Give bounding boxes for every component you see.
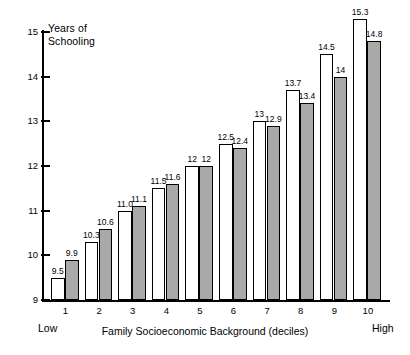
white-bar bbox=[286, 90, 300, 300]
chart-container: Years of Schooling 9101112131415 9.59.91… bbox=[0, 0, 410, 355]
y-axis-tick-mark bbox=[41, 165, 50, 167]
y-axis-tick-label: 9 bbox=[12, 295, 38, 305]
white-bar bbox=[51, 278, 65, 300]
y-axis-tick-label: 10 bbox=[12, 250, 38, 260]
bar-group: 14.514 bbox=[320, 28, 348, 300]
gray-bar bbox=[132, 206, 146, 300]
gray-bar bbox=[367, 41, 381, 300]
x-axis-tick-label: 7 bbox=[252, 306, 282, 316]
white-bar bbox=[152, 188, 166, 300]
bar-value-label: 13.7 bbox=[282, 79, 304, 88]
bar-group: 11.011.1 bbox=[118, 28, 146, 300]
white-bar bbox=[185, 166, 199, 300]
gray-bar bbox=[267, 126, 281, 300]
y-axis-tick-mark bbox=[41, 299, 50, 301]
bar-group: 15.314.8 bbox=[353, 28, 381, 300]
plot-area: 9101112131415 9.59.910.310.611.011.111.5… bbox=[42, 30, 390, 302]
white-bar bbox=[353, 19, 367, 300]
y-axis-tick-mark bbox=[41, 210, 50, 212]
x-axis-tick-label: 1 bbox=[51, 306, 81, 316]
bar-group: 13.713.4 bbox=[286, 28, 314, 300]
y-axis-tick-mark bbox=[41, 76, 50, 78]
x-axis-tick-label: 5 bbox=[185, 306, 215, 316]
bar-group: 12.512.4 bbox=[219, 28, 247, 300]
y-axis-tick-mark bbox=[41, 254, 50, 256]
white-bar bbox=[320, 54, 334, 300]
bar-value-label: 12 bbox=[195, 155, 217, 164]
y-axis-tick-mark bbox=[41, 120, 50, 122]
gray-bar bbox=[199, 166, 213, 300]
gray-bar bbox=[166, 184, 180, 300]
x-axis-tick-label: 6 bbox=[219, 306, 249, 316]
white-bar bbox=[253, 121, 267, 300]
bar-group: 9.59.9 bbox=[51, 28, 79, 300]
x-axis-line bbox=[42, 300, 390, 302]
y-axis-tick-label: 12 bbox=[12, 161, 38, 171]
x-axis-tick-label: 3 bbox=[118, 306, 148, 316]
y-axis-tick-label: 13 bbox=[12, 116, 38, 126]
x-axis-tick-label: 4 bbox=[151, 306, 181, 316]
gray-bar bbox=[65, 260, 79, 300]
white-bar bbox=[118, 211, 132, 300]
bar-group: 11.511.6 bbox=[152, 28, 180, 300]
white-bar bbox=[219, 144, 233, 300]
y-axis-tick-label: 14 bbox=[12, 72, 38, 82]
bar-value-label: 14 bbox=[330, 66, 352, 75]
y-axis-tick-label: 11 bbox=[12, 206, 38, 216]
gray-bar bbox=[99, 229, 113, 300]
bar-value-label: 9.9 bbox=[61, 249, 83, 258]
bar-value-label: 13.4 bbox=[296, 92, 318, 101]
bar-value-label: 10.6 bbox=[95, 218, 117, 227]
bar-value-label: 15.3 bbox=[349, 8, 371, 17]
white-bar bbox=[85, 242, 99, 300]
bar-value-label: 14.5 bbox=[316, 43, 338, 52]
y-axis-tick-mark bbox=[41, 31, 50, 33]
bar-group: 1312.9 bbox=[253, 28, 281, 300]
y-axis-tick-label: 15 bbox=[12, 27, 38, 37]
bar-value-label: 11.1 bbox=[128, 195, 150, 204]
x-axis-title: Family Socioeconomic Background (deciles… bbox=[0, 325, 410, 337]
bar-value-label: 12.9 bbox=[263, 115, 285, 124]
x-axis-tick-label: 10 bbox=[353, 306, 383, 316]
x-axis-tick-label: 8 bbox=[286, 306, 316, 316]
bar-group: 10.310.6 bbox=[85, 28, 113, 300]
gray-bar bbox=[300, 103, 314, 300]
bar-value-label: 14.8 bbox=[363, 30, 385, 39]
bar-group: 1212 bbox=[185, 28, 213, 300]
gray-bar bbox=[233, 148, 247, 300]
x-axis-tick-label: 2 bbox=[84, 306, 114, 316]
x-axis-tick-label: 9 bbox=[319, 306, 349, 316]
bar-value-label: 12.4 bbox=[229, 137, 251, 146]
gray-bar bbox=[334, 77, 348, 300]
bar-value-label: 11.6 bbox=[162, 173, 184, 182]
